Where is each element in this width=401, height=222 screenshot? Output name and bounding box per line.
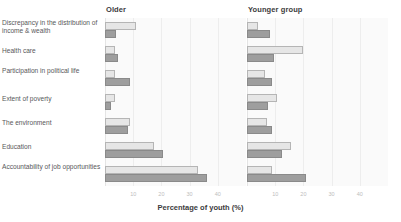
- category-label-column: Discrepancy in the distribution of incom…: [2, 18, 102, 186]
- bar-male: [247, 118, 267, 126]
- x-axis-tick-label: 30: [183, 191, 197, 197]
- bar-female: [105, 150, 163, 158]
- panel-title-older: Older: [106, 5, 126, 14]
- bar-female: [247, 174, 306, 182]
- bar-female: [105, 174, 207, 182]
- category-label: Extent of poverty: [2, 95, 102, 103]
- bar-female: [247, 126, 272, 134]
- plot-area-younger: [247, 18, 388, 186]
- bar-female: [247, 102, 268, 110]
- category-label: Accountability of job opportunities: [2, 163, 102, 171]
- gridline: [218, 18, 219, 186]
- gridline: [275, 18, 276, 186]
- category-label: Education: [2, 143, 102, 151]
- gridline: [133, 18, 134, 186]
- gridline: [360, 18, 361, 186]
- x-axis-tick-label: 40: [211, 191, 225, 197]
- bar-female: [247, 30, 270, 38]
- bar-male: [247, 46, 303, 54]
- bar-male: [105, 22, 136, 30]
- x-axis-tick-label: 20: [154, 191, 168, 197]
- bar-female: [105, 102, 111, 110]
- x-axis-tick-label: 10: [268, 191, 282, 197]
- category-label: Discrepancy in the distribution of incom…: [2, 19, 102, 34]
- category-label: The environment: [2, 119, 102, 127]
- gridline: [332, 18, 333, 186]
- gridline: [190, 18, 191, 186]
- bar-male: [247, 94, 277, 102]
- bar-male: [247, 166, 272, 174]
- bar-female: [105, 78, 130, 86]
- bar-female: [105, 54, 118, 62]
- x-axis-tick-label: 30: [325, 191, 339, 197]
- panel-title-younger: Younger group: [248, 5, 303, 14]
- x-axis-tick-label: 40: [353, 191, 367, 197]
- grouped-bar-chart: Older Younger group MaleFemale Discrepan…: [0, 0, 401, 222]
- bar-female: [247, 54, 274, 62]
- bar-female: [247, 78, 272, 86]
- bar-female: [105, 30, 116, 38]
- gridline: [161, 18, 162, 186]
- plot-area-older: [105, 18, 246, 186]
- bar-male: [105, 46, 115, 54]
- bar-male: [105, 118, 130, 126]
- bar-male: [105, 70, 115, 78]
- bar-female: [247, 150, 282, 158]
- gridline: [303, 18, 304, 186]
- bar-male: [247, 22, 258, 30]
- bar-male: [105, 166, 198, 174]
- bar-female: [105, 126, 128, 134]
- bar-male: [105, 142, 154, 150]
- bar-male: [247, 142, 291, 150]
- category-label: Participation in political life: [2, 67, 102, 75]
- x-axis-tick-label: 10: [126, 191, 140, 197]
- x-axis-tick-label: 20: [296, 191, 310, 197]
- category-label: Health care: [2, 47, 102, 55]
- x-axis-title: Percentage of youth (%): [0, 203, 401, 212]
- bar-male: [247, 70, 265, 78]
- bar-male: [105, 94, 115, 102]
